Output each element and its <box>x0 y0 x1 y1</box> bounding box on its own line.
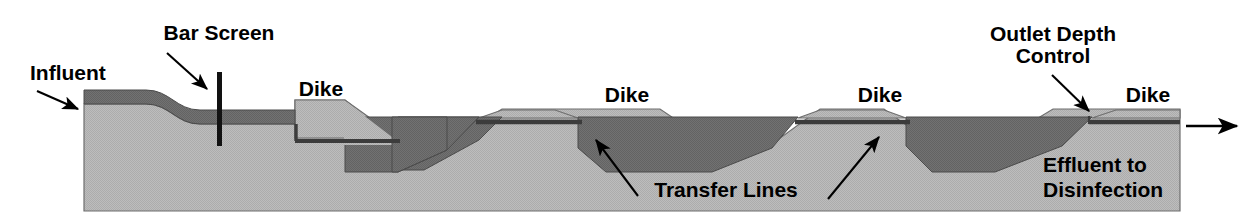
influent-arrow <box>37 91 78 109</box>
bar-screen-arrow <box>167 53 207 89</box>
lagoon-cross-section-diagram: Influent Bar Screen Dike Dike Dike Dike … <box>0 0 1257 219</box>
dike-2-label: Dike <box>605 83 649 106</box>
dike-4-label: Dike <box>1126 83 1170 106</box>
dike-1-label: Dike <box>299 77 343 100</box>
outlet-depth-control-arrow <box>1052 75 1089 111</box>
diagram-canvas: Influent Bar Screen Dike Dike Dike Dike … <box>0 0 1257 219</box>
transfer-lines-label: Transfer Lines <box>654 178 798 201</box>
dike-3-body <box>798 110 906 118</box>
effluent-label-line2: Disinfection <box>1043 178 1163 201</box>
dike-3-label: Dike <box>858 83 902 106</box>
outlet-depth-control-label-line2: Control <box>1016 44 1091 67</box>
influent-label: Influent <box>30 61 106 84</box>
effluent-label-line1: Effluent to <box>1043 153 1147 176</box>
bar-screen-bar <box>217 72 222 146</box>
outlet-depth-control-label-line1: Outlet Depth <box>990 22 1116 45</box>
bar-screen-label: Bar Screen <box>164 21 275 44</box>
